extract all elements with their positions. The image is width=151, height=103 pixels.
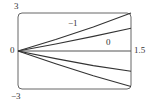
plot-area [0,0,151,103]
y-min-label: −3 [11,92,21,101]
x-max-label: 1.5 [134,46,145,55]
curve-label-zero: 0 [106,38,111,47]
series-curve-2 [18,28,131,51]
y-max-label: 3 [14,2,19,11]
curve-label-minus-one: −1 [68,19,78,28]
series-curve-4 [18,51,131,71]
origin-label: 0 [10,46,15,55]
